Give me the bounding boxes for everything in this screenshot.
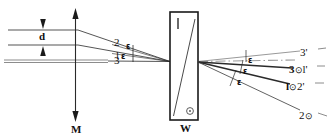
label-eps-right-1: ε — [248, 57, 252, 65]
slab-body — [170, 12, 198, 120]
label-eps-left-upper: ε — [126, 43, 130, 51]
label-slab-w: W — [180, 123, 191, 134]
label-2p-prime: ' — [303, 80, 305, 92]
trailing-dash-3p — [318, 48, 326, 49]
label-outgoing-ray-1-2p: l⊙2' — [286, 77, 305, 93]
crystal-slab — [170, 12, 198, 120]
m-axis-arrow-up — [72, 8, 78, 19]
ray-diagram-svg — [0, 0, 329, 139]
label-outgoing-ray-3p: 3' — [300, 43, 307, 59]
outgoing-ray-2 — [198, 62, 300, 110]
m-axis-arrow-down — [72, 111, 78, 122]
label-incoming-ray-2: 2 — [114, 37, 120, 48]
label-eps-right-3: ε — [237, 79, 241, 87]
label-1p-prime: ' — [306, 63, 308, 75]
circle-dot-icon-1: ⊙ — [295, 65, 303, 75]
circle-dot-icon-3: ⊙ — [305, 111, 313, 121]
label-eps-right-2: ε — [243, 68, 247, 76]
trailing-dash-2 — [318, 113, 327, 116]
label-m-axis: M — [71, 124, 81, 135]
m-axis — [72, 8, 78, 122]
figure-canvas: 2 l 3 d M ε ε W ε ε ε 3' 3⊙l' l⊙2' 2⊙ — [0, 0, 329, 139]
label-outgoing-ray-3-1p: 3⊙l' — [289, 60, 308, 76]
label-outgoing-ray-2: 2⊙ — [299, 106, 313, 122]
label-3p-prime: ' — [306, 46, 308, 58]
circle-dot-icon-2: ⊙ — [289, 82, 297, 92]
slab-optic-axis-dot-center — [189, 110, 191, 112]
label-separation-d: d — [39, 31, 45, 42]
eps-right-tick-3 — [230, 70, 236, 86]
label-incoming-ray-3: 3 — [114, 55, 120, 66]
label-trailing-dashes — [315, 48, 327, 116]
label-eps-left-lower: ε — [121, 53, 125, 61]
